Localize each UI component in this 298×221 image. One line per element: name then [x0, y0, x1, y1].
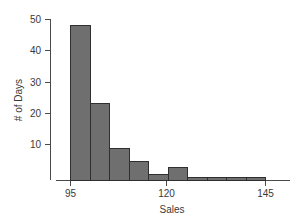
- histogram-bar: [227, 177, 247, 180]
- histogram-bar: [71, 26, 91, 181]
- bars-group: [71, 26, 266, 181]
- histogram-bar: [207, 177, 227, 180]
- histogram-bar: [188, 177, 208, 180]
- y-tick-label-40: 40: [30, 45, 42, 56]
- histogram-bar: [110, 148, 130, 180]
- histogram-bar: [90, 103, 110, 180]
- histogram-bar: [168, 168, 188, 181]
- y-tick-label-50: 50: [30, 14, 42, 25]
- y-tick-label-30: 30: [30, 77, 42, 88]
- x-tick-label-145: 145: [257, 188, 274, 199]
- histogram-bar: [246, 177, 266, 180]
- x-tick-label-95: 95: [65, 188, 77, 199]
- chart-canvas: 10 20 30 40 50 # of Days 95 120 145 Sale…: [0, 0, 298, 221]
- y-axis-title: # of Days: [13, 79, 24, 121]
- x-tick-label-120: 120: [158, 188, 175, 199]
- histogram-bar: [129, 161, 149, 180]
- histogram-chart: 10 20 30 40 50 # of Days 95 120 145 Sale…: [0, 0, 298, 221]
- histogram-bar: [149, 174, 169, 180]
- y-tick-label-10: 10: [30, 139, 42, 150]
- x-axis-title: Sales: [159, 204, 184, 215]
- y-tick-label-20: 20: [30, 108, 42, 119]
